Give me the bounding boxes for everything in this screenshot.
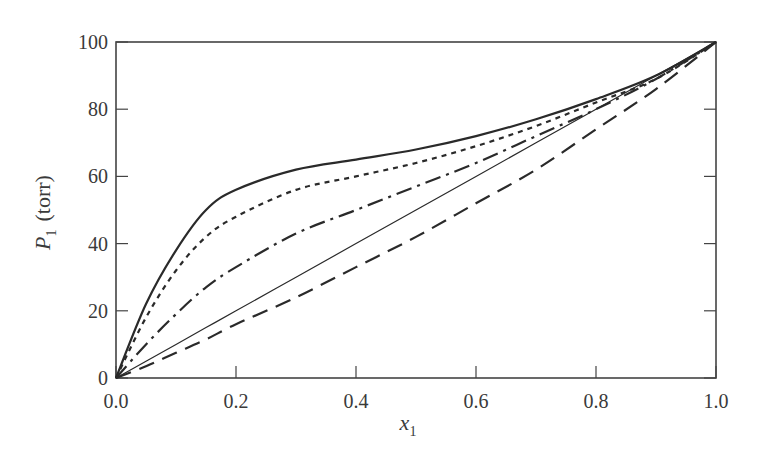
x-axis-label: x1 bbox=[399, 410, 417, 439]
y-tick-label: 40 bbox=[88, 233, 108, 255]
x-tick-label: 0.8 bbox=[584, 390, 609, 412]
x-tick-label: 0.2 bbox=[224, 390, 249, 412]
y-axis-label: P1(torr) bbox=[30, 175, 59, 251]
y-tick-label: 60 bbox=[88, 165, 108, 187]
y-tick-label: 20 bbox=[88, 300, 108, 322]
x-tick-label: 0.0 bbox=[104, 390, 129, 412]
y-tick-label: 80 bbox=[88, 98, 108, 120]
axis-ticks: 0204060801000.00.20.40.60.81.0 bbox=[78, 31, 729, 412]
data-series bbox=[116, 42, 716, 378]
x-tick-label: 0.4 bbox=[344, 390, 369, 412]
x-tick-label: 0.6 bbox=[464, 390, 489, 412]
x-tick-label: 1.0 bbox=[704, 390, 729, 412]
y-tick-label: 100 bbox=[78, 31, 108, 53]
chart: 0204060801000.00.20.40.60.81.0 P1(torr) … bbox=[0, 0, 758, 464]
y-tick-label: 0 bbox=[98, 367, 108, 389]
